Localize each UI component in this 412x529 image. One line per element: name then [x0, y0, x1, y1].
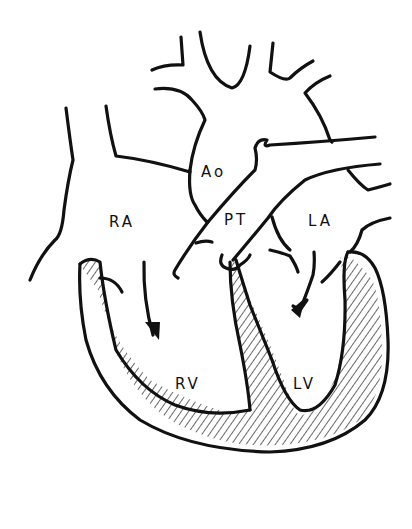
- label-right-ventricle: RV: [175, 375, 201, 393]
- aortic-arch: [152, 32, 330, 170]
- label-aorta: Ao: [201, 163, 226, 181]
- label-left-atrium: LA: [308, 212, 333, 230]
- right-atrium-outline: [30, 106, 207, 280]
- flow-arrow-ra-rv: [144, 262, 160, 340]
- heart-diagram: Ao PT RA LA RV LV: [0, 0, 412, 529]
- label-left-ventricle: LV: [293, 375, 316, 393]
- valves: [100, 241, 340, 292]
- great-vessels: [174, 137, 390, 278]
- ventricular-wall: [80, 252, 389, 452]
- label-pulmonary-trunk: PT: [224, 211, 248, 229]
- label-right-atrium: RA: [109, 213, 135, 231]
